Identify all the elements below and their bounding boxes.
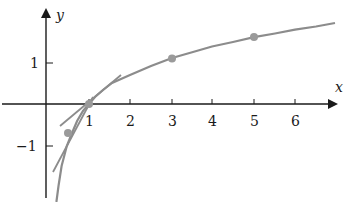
x-axis-label: x [335, 79, 343, 95]
y-axis-label: y [55, 7, 65, 23]
x-tick-label-1: 1 [85, 113, 94, 129]
x-tick-label-3: 3 [168, 113, 177, 129]
x-tick-label-2: 2 [126, 113, 135, 129]
secant-line [53, 97, 93, 172]
point-x-0.5 [64, 129, 72, 137]
x-tick-label-5: 5 [250, 113, 259, 129]
point-x-5 [250, 33, 258, 41]
x-tick-label-4: 4 [208, 113, 217, 129]
y-tick-label-minus-1: −1 [16, 138, 37, 154]
x-tick-label-6: 6 [291, 113, 300, 129]
x-ticks [89, 99, 295, 104]
ln-graph: 1 2 3 4 5 6 1 −1 x y [0, 0, 347, 202]
y-tick-label-1: 1 [30, 55, 39, 71]
point-x-1 [85, 100, 93, 108]
point-x-3 [168, 55, 176, 63]
